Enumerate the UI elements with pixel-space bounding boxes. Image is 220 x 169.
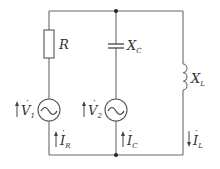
resistor xyxy=(44,30,54,58)
ic-dot: · xyxy=(129,126,132,136)
il-dot: · xyxy=(195,126,198,136)
inductor xyxy=(183,64,187,90)
v2-arrow-icon xyxy=(82,101,86,117)
ir-arrow-icon xyxy=(54,131,58,147)
v1-dot: · xyxy=(26,96,29,106)
voltage-source-2 xyxy=(105,99,127,121)
il-arrow-icon xyxy=(187,131,191,147)
v1-arrow-icon xyxy=(15,101,19,117)
inductor-label: XL xyxy=(190,71,205,88)
ic-label: IC xyxy=(126,133,138,150)
resistor-label: R xyxy=(58,37,69,52)
circuit-diagram: R XC XL V1 · V2 · IR · IC · xyxy=(0,0,220,169)
ic-arrow-icon xyxy=(121,131,125,147)
ir-label: IR xyxy=(59,133,71,150)
wires xyxy=(49,11,183,155)
bottom-junction-dot xyxy=(114,153,118,157)
v2-dot: · xyxy=(93,96,96,106)
capacitor xyxy=(108,44,124,48)
voltage-source-1 xyxy=(38,99,60,121)
capacitor-label: XC xyxy=(126,38,142,55)
top-junction-dot xyxy=(114,9,118,13)
ir-dot: · xyxy=(62,126,65,136)
